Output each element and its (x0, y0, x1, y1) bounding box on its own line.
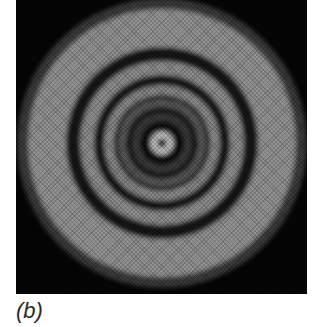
interference-ring-image (16, 0, 307, 294)
halftone-texture (16, 0, 307, 294)
panel-label: (b) (16, 298, 43, 324)
